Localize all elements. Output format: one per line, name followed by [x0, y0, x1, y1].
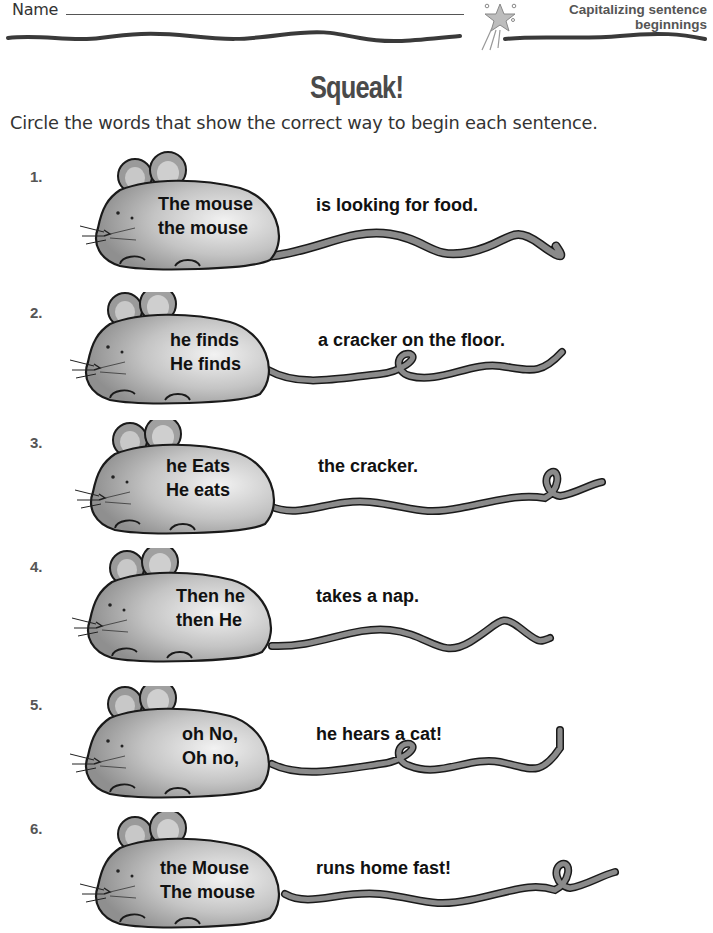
sentence-ending: runs home fast!: [316, 858, 451, 879]
topic-label: Capitalizing sentence beginnings: [569, 2, 707, 32]
choice-option-b[interactable]: Oh no,: [182, 746, 239, 770]
sentence-ending: takes a nap.: [316, 586, 419, 607]
choice-option-a[interactable]: he Eats: [166, 454, 230, 478]
mouse-illustration: [0, 292, 713, 422]
shooting-star-icon: [470, 0, 520, 52]
choice-option-b[interactable]: then He: [176, 608, 245, 632]
name-label: Name: [12, 0, 58, 19]
choice-option-b[interactable]: the mouse: [158, 216, 253, 240]
choice-group: oh No, Oh no,: [182, 722, 239, 770]
name-input-line[interactable]: [66, 14, 464, 15]
choice-group: he finds He finds: [170, 328, 241, 376]
topic-line-1: Capitalizing sentence: [569, 2, 707, 17]
choice-option-a[interactable]: oh No,: [182, 722, 239, 746]
choice-option-a[interactable]: The mouse: [158, 192, 253, 216]
exercise-item-1: 1. The mouse the mouse is looking for fo…: [0, 148, 713, 278]
choice-option-b[interactable]: The mouse: [160, 880, 255, 904]
choice-group: he Eats He eats: [166, 454, 230, 502]
choice-option-b[interactable]: He finds: [170, 352, 241, 376]
sentence-ending: a cracker on the floor.: [318, 330, 505, 351]
choice-option-a[interactable]: he finds: [170, 328, 241, 352]
choice-group: The mouse the mouse: [158, 192, 253, 240]
choice-option-a[interactable]: Then he: [176, 584, 245, 608]
worksheet-title: Squeak!: [64, 70, 649, 106]
exercise-item-2: 2. he finds He finds a cracker on the fl…: [0, 292, 713, 422]
sentence-ending: is looking for food.: [316, 195, 478, 216]
sentence-ending: the cracker.: [318, 456, 418, 477]
instruction-text: Circle the words that show the correct w…: [10, 112, 598, 133]
sentence-ending: he hears a cat!: [316, 724, 442, 745]
exercise-item-6: 6. the Mouse The mouse runs home fast!: [0, 812, 713, 933]
topic-line-2: beginnings: [569, 17, 707, 32]
worksheet-header: Name Capitalizing sentence beginnings: [0, 0, 713, 60]
mouse-illustration: [0, 420, 713, 550]
choice-group: Then he then He: [176, 584, 245, 632]
choice-option-a[interactable]: the Mouse: [160, 856, 255, 880]
exercise-item-4: 4. Then he then He takes a nap.: [0, 548, 713, 678]
choice-option-b[interactable]: He eats: [166, 478, 230, 502]
choice-group: the Mouse The mouse: [160, 856, 255, 904]
mouse-illustration: [0, 548, 713, 678]
exercise-item-5: 5. oh No, Oh no, he hears a cat!: [0, 686, 713, 816]
exercise-item-3: 3. he Eats He eats the cracker.: [0, 420, 713, 550]
mouse-illustration: [0, 686, 713, 816]
